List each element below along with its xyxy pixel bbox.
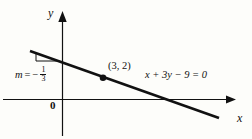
slope-fraction: 1 3 [40, 66, 46, 84]
x-axis-arrowhead [226, 96, 236, 104]
y-axis-arrowhead [58, 11, 66, 22]
slope-symbol: m [15, 70, 23, 81]
x-axis [3, 96, 236, 104]
slope-equals-sign: = [25, 70, 31, 81]
slope-denominator: 3 [40, 74, 46, 83]
slope-label: m = − 1 3 [15, 66, 46, 84]
x-axis-label: x [237, 112, 242, 124]
equation-label: x + 3y − 9 = 0 [145, 70, 207, 81]
point-marker [100, 75, 107, 82]
slope-numerator: 1 [40, 66, 46, 74]
point-coordinate-label: (3, 2) [108, 61, 131, 72]
origin-label: 0 [50, 100, 56, 111]
line-graph-figure: y x 0 (3, 2) x + 3y − 9 = 0 m = − 1 3 [0, 0, 252, 139]
y-axis [58, 11, 66, 136]
y-axis-label: y [48, 7, 53, 19]
slope-minus-sign: − [33, 70, 39, 81]
